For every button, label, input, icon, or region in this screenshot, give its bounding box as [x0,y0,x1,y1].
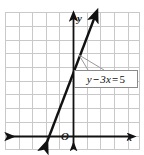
equation-value: 5 [120,73,126,85]
y-axis-label: y [77,13,82,24]
equation-text: y−3x=5 [87,73,126,85]
equation-term-3x: 3x [100,73,111,85]
equation-label-box: y−3x=5 [74,70,138,88]
x-axis-label: x [127,133,132,143]
origin-label: O [61,131,69,142]
equation-equals-sign: = [111,73,119,85]
graph-figure: y−3x=5 y x O [0,0,144,155]
